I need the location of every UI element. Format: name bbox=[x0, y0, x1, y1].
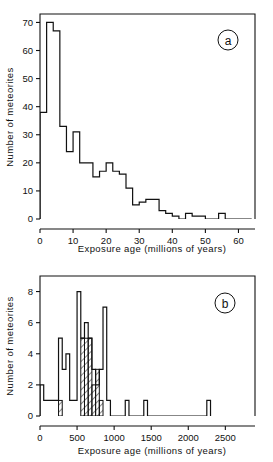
panel-b-tag-label: b bbox=[222, 297, 229, 311]
y-tick-label: 60 bbox=[22, 45, 33, 56]
y-tick-label: 20 bbox=[22, 157, 33, 168]
y-tick-label: 40 bbox=[22, 101, 33, 112]
hatched-bar bbox=[59, 400, 63, 416]
x-tick-label: 2000 bbox=[178, 432, 199, 443]
panel-a-frame bbox=[40, 14, 255, 219]
x-tick-label: 2500 bbox=[215, 432, 236, 443]
x-tick-label: 500 bbox=[69, 432, 85, 443]
y-tick-label: 70 bbox=[22, 17, 33, 28]
hatched-bar bbox=[84, 338, 88, 416]
panel-a-x-axis-title: Exposure age (millions of years) bbox=[78, 243, 227, 254]
x-tick-label: 60 bbox=[233, 235, 244, 246]
panel-a-plot: 010203040506070 0102030405060 Exposure a… bbox=[0, 0, 273, 255]
x-tick-label: 1000 bbox=[104, 432, 125, 443]
y-tick-label: 30 bbox=[22, 129, 33, 140]
panel-b-x-axis: 05001000150020002500 bbox=[37, 426, 236, 443]
y-tick-label: 10 bbox=[22, 185, 33, 196]
panel-a-y-axis-title: Number of meteorites bbox=[4, 67, 15, 166]
panel-b-y-axis: 02468 bbox=[28, 286, 40, 421]
x-tick-label: 0 bbox=[37, 432, 42, 443]
x-tick-label: 1500 bbox=[141, 432, 162, 443]
y-tick-label: 6 bbox=[28, 317, 33, 328]
hatched-bar bbox=[81, 338, 85, 416]
meteorite-exposure-age-figure: 010203040506070 0102030405060 Exposure a… bbox=[0, 0, 273, 462]
panel-b-tag: b bbox=[215, 293, 235, 313]
y-tick-label: 0 bbox=[28, 410, 33, 421]
panel-b-y-axis-title: Number of meteorites bbox=[4, 296, 15, 395]
panel-a-y-axis: 010203040506070 bbox=[22, 17, 40, 225]
y-tick-label: 4 bbox=[28, 348, 33, 359]
y-tick-label: 0 bbox=[28, 213, 33, 224]
panel-a-histogram bbox=[40, 22, 252, 219]
panel-a-tag: a bbox=[218, 30, 238, 50]
panel-a-tag-label: a bbox=[225, 34, 232, 48]
hatched-bar bbox=[92, 385, 96, 416]
panel-b: 02468 05001000150020002500 Exposure age … bbox=[0, 258, 273, 462]
y-tick-label: 50 bbox=[22, 73, 33, 84]
panel-b-histogram bbox=[40, 292, 211, 416]
panel-b-x-axis-title: Exposure age (millions of years) bbox=[78, 445, 227, 456]
hatched-bar bbox=[99, 400, 103, 416]
panel-a: 010203040506070 0102030405060 Exposure a… bbox=[0, 0, 273, 255]
panel-b-hatched-bars bbox=[59, 338, 103, 416]
panel-b-plot: 02468 05001000150020002500 Exposure age … bbox=[0, 258, 273, 462]
x-tick-label: 0 bbox=[37, 235, 42, 246]
y-tick-label: 8 bbox=[28, 286, 33, 297]
y-tick-label: 2 bbox=[28, 379, 33, 390]
